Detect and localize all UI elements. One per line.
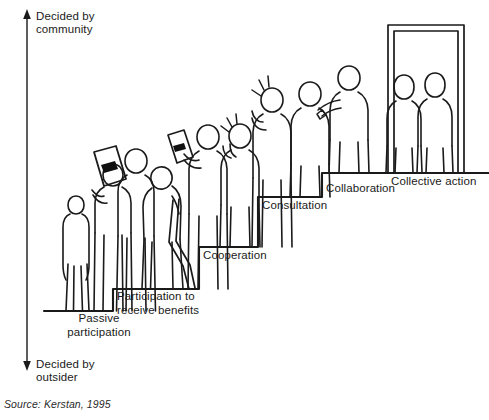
step-figures-cooperation: [220, 76, 292, 247]
step-label-collaboration: Collaboration: [326, 182, 395, 196]
speech-lines-icon: [252, 76, 269, 96]
step-label-cooperation: Cooperation: [203, 249, 267, 263]
step-label-consultation: Consultation: [262, 199, 327, 213]
step-figures-consultation: [290, 82, 330, 197]
step-figures-collaboration: [317, 66, 369, 173]
step-figures-collective-action: [386, 25, 464, 173]
axis-label-bottom: Decided by outsider: [36, 358, 95, 384]
document-icon: [168, 130, 193, 163]
participation-ladder-figure: Decided by community Decided by outsider…: [0, 0, 489, 420]
step-label-participation-to-receive-benefits: Participation to receive benefits: [117, 290, 199, 317]
staircase-steps: [44, 173, 489, 311]
axis-label-top: Decided by community: [36, 10, 95, 36]
speech-lines-icon: [221, 114, 237, 132]
step-label-collective-action: Collective action: [391, 175, 476, 189]
vertical-axis-arrow: [23, 9, 31, 371]
ladder-diagram-svg: [0, 0, 489, 420]
source-citation: Source: Kerstan, 1995: [4, 398, 111, 410]
